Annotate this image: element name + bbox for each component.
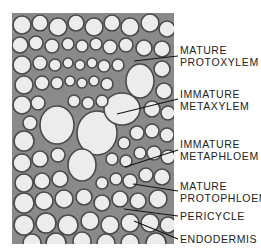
label-line: ENDODERMIS (180, 233, 257, 245)
cell-tissue-image (12, 13, 174, 244)
label-line: METAPHLOEM (180, 150, 259, 162)
label-line: IMMATURE (180, 138, 259, 150)
label-line: METAXYLEM (180, 100, 249, 112)
label-immature-metaxylem: IMMATURE METAXYLEM (180, 88, 249, 112)
label-line: IMMATURE (180, 88, 249, 100)
label-mature-protoxylem: MATURE PROTOXYLEM (180, 44, 259, 68)
label-immature-metaphloem: IMMATURE METAPHLOEM (180, 138, 259, 162)
label-endodermis: ENDODERMIS (180, 233, 257, 245)
labeled-micrograph-figure: MATURE PROTOXYLEM IMMATURE METAXYLEM IMM… (0, 0, 261, 250)
label-line: PERICYCLE (180, 210, 245, 222)
label-line: MATURE (180, 44, 259, 56)
label-line: PROTOXYLEM (180, 56, 259, 68)
label-mature-protophloem: MATURE PROTOPHLOEM (180, 180, 261, 204)
micrograph-photo (12, 13, 174, 244)
label-pericycle: PERICYCLE (180, 210, 245, 222)
label-line: MATURE (180, 180, 261, 192)
label-line: PROTOPHLOEM (180, 192, 261, 204)
